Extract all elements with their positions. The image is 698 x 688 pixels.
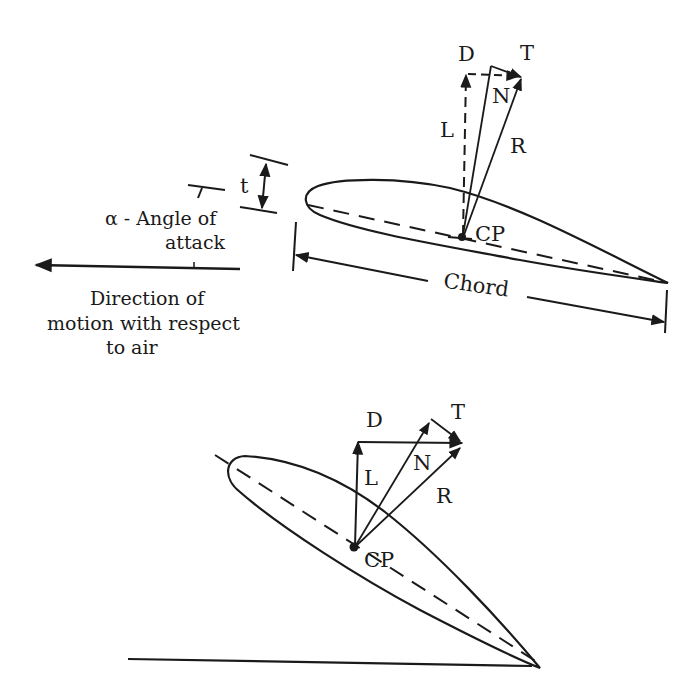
angle-of-attack-label-1: α - Angle of [105, 207, 218, 229]
airfoil-forces-diagram: Chord t α - Angle of attack Direction of… [0, 0, 698, 688]
bottom-diagram: D T N L R CP [128, 400, 540, 668]
top-resultant-label: R [510, 134, 527, 158]
bottom-resultant-label: R [436, 484, 453, 508]
alpha-tick-bar [188, 185, 225, 190]
chord-arrow-right [527, 297, 664, 322]
bottom-lift-label: L [364, 466, 378, 490]
thickness-top-tick [250, 155, 288, 165]
direction-label-2: motion with respect [47, 312, 240, 334]
alpha-tick-stem [198, 188, 202, 198]
thickness-arrow [262, 164, 266, 208]
thickness-bottom-tick [240, 207, 277, 213]
bottom-tangential-label: T [451, 400, 465, 424]
bottom-cp-label: CP [364, 548, 394, 572]
top-lift-vector [463, 75, 466, 235]
top-normal-label: N [492, 84, 510, 108]
chord-left-tick [293, 222, 296, 271]
direction-label-1: Direction of [90, 287, 206, 309]
direction-label-3: to air [106, 336, 159, 358]
bottom-horizontal-reference-line [128, 659, 532, 666]
bottom-drag-vector [358, 442, 462, 443]
chord-label: Chord [442, 269, 510, 302]
direction-of-motion-arrow [36, 265, 240, 269]
top-normal-vector [463, 66, 491, 235]
top-tangential-label: T [520, 41, 534, 65]
top-diagram: Chord t α - Angle of attack Direction of… [36, 41, 668, 358]
chord-arrow-left [296, 255, 428, 281]
top-cp-label: CP [475, 222, 505, 246]
thickness-label: t [240, 174, 249, 198]
bottom-drag-label: D [366, 408, 383, 432]
top-cp-tick [448, 237, 472, 239]
top-drag-label: D [458, 42, 475, 66]
top-lift-label: L [440, 118, 454, 142]
bottom-normal-label: N [413, 451, 431, 475]
angle-of-attack-label-2: attack [165, 231, 226, 253]
chord-right-tick [665, 290, 667, 333]
